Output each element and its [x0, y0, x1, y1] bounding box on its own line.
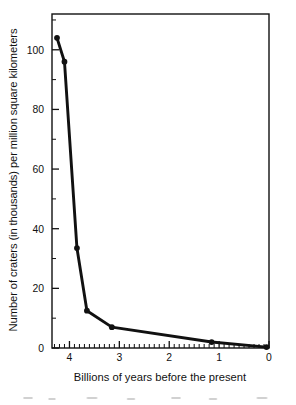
data-series-group — [54, 35, 269, 350]
data-point-marker — [84, 308, 90, 314]
data-line — [57, 38, 267, 347]
data-point-marker — [54, 35, 60, 41]
data-point-marker — [109, 324, 115, 330]
data-point-marker — [264, 344, 270, 350]
data-point-marker — [62, 59, 68, 65]
x-axis-title: Billions of years before the present — [40, 371, 280, 383]
plot-area — [0, 0, 296, 405]
chart-figure: Number of craters (in thousands) per mil… — [0, 0, 296, 405]
data-point-marker — [74, 245, 80, 251]
scan-artifact — [0, 392, 296, 405]
data-point-marker — [209, 339, 215, 345]
